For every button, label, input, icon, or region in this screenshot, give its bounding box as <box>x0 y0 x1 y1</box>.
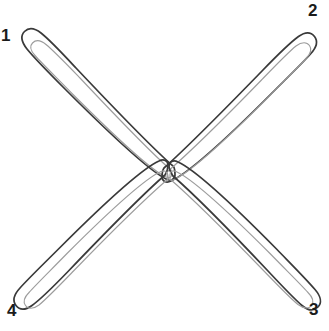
arm-1-group <box>22 29 175 180</box>
x-shape-drawing <box>0 0 329 331</box>
arm-3-group <box>169 161 320 310</box>
arm-3-inner-contour <box>170 171 313 308</box>
arm-3-label: 3 <box>309 301 318 318</box>
arm-1-outer-contour <box>22 29 175 180</box>
arm-1-label: 1 <box>1 27 10 44</box>
arm-2-inner-contour <box>167 43 311 180</box>
arm-2-label: 2 <box>308 2 317 19</box>
arm-2-group <box>162 33 316 182</box>
arm-2-outer-contour <box>162 33 316 182</box>
arm-4-label: 4 <box>7 302 16 319</box>
arm-1-inner-contour <box>31 41 172 178</box>
arm-4-group <box>14 160 168 309</box>
figure-canvas: 1 2 3 4 <box>0 0 329 331</box>
arm-3-outer-contour <box>169 161 320 310</box>
